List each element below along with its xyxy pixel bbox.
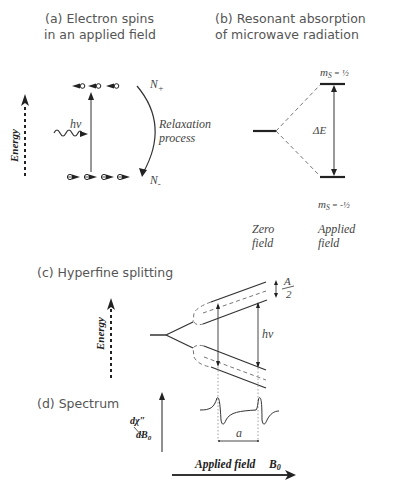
panel-a: (a) Electron spins in an applied field E… [8,11,211,189]
panel-d: (d) Spectrum dχ″ dB0 a Applied field B0 [37,392,296,480]
panel-c: (c) Hyperfine splitting Energy [37,265,294,441]
lower-hyperfine-levels [193,345,266,388]
hv-label-c: hν [262,327,274,341]
lower-spins [67,174,130,179]
n-minus-label: N- [149,174,161,189]
a-half-numerator: A [283,275,291,287]
ms-lower-label: mS= -½ [318,198,350,212]
panel-b-title-line1: (b) Resonant absorption [215,11,366,26]
upper-spins [72,84,119,89]
x-axis-label: Applied field [194,458,256,471]
spin-right-icon [84,174,97,179]
relaxation-arc-icon [137,86,155,173]
spin-left-icon [72,84,85,89]
spin-right-icon [67,174,80,179]
spin-right-icon [101,174,114,179]
zero-field-label-line2: field [252,236,274,250]
spin-right-icon [117,174,130,179]
relaxation-label-line2: process [158,131,196,145]
split-lower-dashed [276,131,320,176]
zero-field-label-line1: Zero [252,222,274,236]
panel-a-title-line2: in an applied field [44,27,156,42]
spacing-a-label: a [236,426,242,440]
panel-b-title-line2: of microwave radiation [215,27,359,42]
upper-hyperfine-levels [193,282,267,325]
ms-upper-label: mS= ½ [320,66,349,80]
spectrum-curve [200,398,279,425]
panel-d-title: (d) Spectrum [37,396,119,411]
n-plus-label: N+ [149,78,164,93]
spin-left-icon [88,84,101,89]
applied-field-label-line2: field [318,236,340,250]
hv-label-a: hν [70,117,82,131]
relaxation-label-line1: Relaxation [158,117,211,131]
y-label-denominator: dB0 [136,429,152,442]
panel-c-title: (c) Hyperfine splitting [37,265,173,280]
energy-axis-arrow-icon-c [107,298,115,378]
y-label-numerator: dχ″ [130,415,145,426]
applied-field-label-line1: Applied [317,222,356,236]
energy-axis-arrow-icon [21,94,29,176]
delta-e-label: ΔE [312,124,326,136]
energy-label: Energy [8,129,20,163]
a-half-denominator: 2 [286,288,292,300]
x-axis-symbol: B0 [268,458,281,472]
spin-left-icon [106,84,119,89]
epr-diagram: (a) Electron spins in an applied field E… [0,0,404,499]
panel-b: (b) Resonant absorption of microwave rad… [215,11,366,250]
panel-a-title-line1: (a) Electron spins [45,11,154,26]
energy-label-c: Energy [94,317,106,351]
